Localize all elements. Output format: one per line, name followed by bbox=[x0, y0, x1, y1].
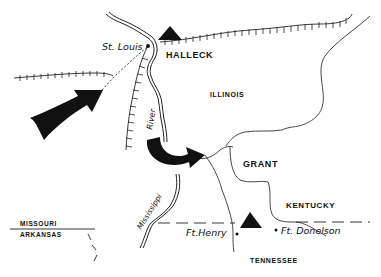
ft-henry-marker bbox=[236, 233, 239, 236]
label-ft-henry: Ft.Henry bbox=[186, 227, 227, 238]
campaign-map: St. Louis HALLECK ILLINOIS River Mississ… bbox=[0, 0, 381, 277]
label-grant: GRANT bbox=[243, 159, 278, 169]
arkansas-border-dashes bbox=[88, 234, 97, 261]
illinois-east-border bbox=[226, 16, 370, 146]
advance-arrow-icon bbox=[30, 90, 103, 140]
st-louis-marker bbox=[146, 44, 150, 48]
railroad-east bbox=[160, 14, 352, 45]
label-tennessee: TENNESSEE bbox=[250, 257, 298, 264]
label-ft-donelson: Ft. Donelson bbox=[281, 225, 341, 236]
railroad-southwest bbox=[102, 46, 148, 90]
halleck-army-icon bbox=[158, 26, 182, 40]
grant-army-icon bbox=[240, 212, 262, 228]
label-river: River bbox=[145, 108, 158, 131]
label-arkansas: ARKANSAS bbox=[20, 231, 62, 238]
ft-donelson-marker bbox=[275, 229, 278, 232]
label-halleck: HALLECK bbox=[166, 50, 213, 60]
label-kentucky: KENTUCKY bbox=[286, 201, 335, 210]
ohio-river bbox=[198, 146, 233, 158]
label-missouri: MISSOURI bbox=[20, 220, 57, 227]
railroad-west bbox=[14, 71, 113, 81]
label-st-louis: St. Louis bbox=[102, 41, 143, 52]
label-illinois: ILLINOIS bbox=[210, 91, 244, 98]
curved-arrow-icon bbox=[147, 137, 205, 168]
railroad-south bbox=[126, 46, 148, 150]
